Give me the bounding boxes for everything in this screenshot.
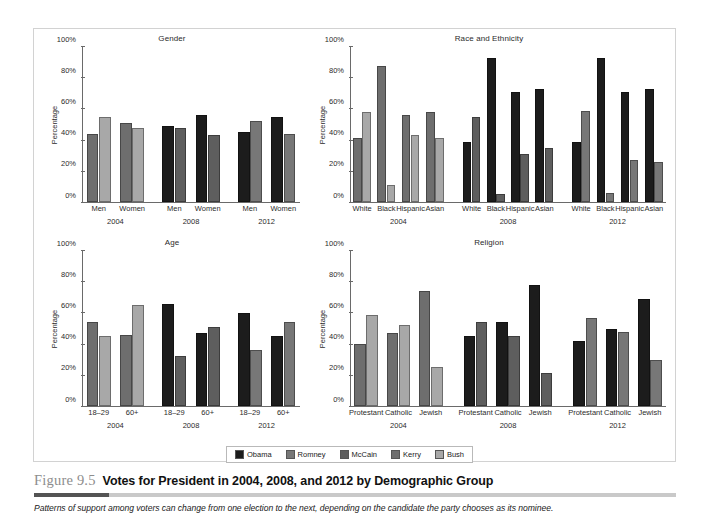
y-axis-tick-label: 100%: [57, 34, 76, 43]
bar: [353, 138, 362, 202]
legend-item-obama: Obama: [235, 450, 272, 459]
bar: [535, 89, 544, 202]
legend-label: Obama: [247, 450, 272, 459]
bar: [581, 111, 590, 202]
x-axis-year-label: 2008: [183, 421, 200, 430]
caption-rule: [34, 493, 676, 497]
bar: [606, 193, 615, 202]
bar: [520, 154, 529, 202]
x-axis-category-label: Protestant: [459, 408, 493, 417]
x-axis-category-label: Men: [91, 204, 106, 213]
bar: [463, 142, 472, 202]
y-axis-tick-label: 40%: [61, 332, 76, 341]
bar: [132, 305, 144, 406]
panel-title: Race and Ethnicity: [306, 34, 672, 43]
bar: [654, 162, 663, 202]
category-label-row: WhiteBlackHispanicAsianWhiteBlackHispani…: [350, 204, 666, 215]
x-axis-category-label: Jewish: [638, 408, 661, 417]
x-axis: [82, 202, 300, 203]
bar: [399, 325, 410, 406]
y-axis-tick-label: 80%: [61, 65, 76, 74]
legend-label: Bush: [447, 450, 464, 459]
x-axis-category-label: Asian: [535, 204, 554, 213]
bar: [250, 350, 262, 406]
bar: [529, 285, 540, 406]
bar: [496, 194, 505, 202]
x-axis-year-label: 2012: [609, 217, 626, 226]
bar: [411, 135, 420, 202]
x-axis-category-label: Men: [167, 204, 182, 213]
y-axis-tick-label: 60%: [329, 96, 344, 105]
bar: [271, 117, 283, 202]
chart-panel-religion: Religion0%20%40%60%80%100%PercentageProt…: [306, 238, 672, 436]
y-axis-tick-label: 100%: [325, 34, 344, 43]
x-axis-category-label: Catholic: [604, 408, 631, 417]
x-axis-category-label: Jewish: [529, 408, 552, 417]
y-axis-tick-label: 20%: [329, 363, 344, 372]
bar: [87, 322, 99, 406]
x-axis-category-label: Women: [270, 204, 296, 213]
x-axis-year-label: 2012: [258, 421, 275, 430]
x-axis-category-label: Black: [487, 204, 505, 213]
figure-page: Gender0%20%40%60%80%100%PercentageMenWom…: [0, 0, 709, 522]
x-axis-category-label: Hispanic: [396, 204, 425, 213]
bar: [238, 132, 250, 202]
x-axis-category-label: Hispanic: [506, 204, 535, 213]
legend-label: Romney: [298, 450, 326, 459]
y-axis-title: Percentage: [318, 106, 327, 144]
category-label-row: ProtestantCatholicJewishProtestantCathol…: [350, 408, 666, 419]
bar: [597, 58, 606, 202]
bar: [196, 333, 208, 406]
bar: [120, 123, 132, 202]
bar: [132, 128, 144, 202]
x-axis-year-label: 2012: [609, 421, 626, 430]
y-axis-tick: [349, 202, 353, 203]
bar: [419, 291, 430, 406]
plot-area: 0%20%40%60%80%100%Percentage: [82, 251, 300, 407]
y-axis-tick-label: 0%: [333, 190, 344, 199]
bar: [472, 117, 481, 202]
bar: [250, 121, 262, 202]
x-axis-category-label: 60+: [201, 408, 214, 417]
x-axis-category-label: Women: [119, 204, 145, 213]
legend-swatch-icon: [286, 450, 295, 459]
legend-swatch-icon: [235, 450, 244, 459]
bar: [645, 89, 654, 202]
legend-swatch-icon: [435, 450, 444, 459]
bar: [586, 318, 597, 406]
bar: [87, 134, 99, 202]
figure-number: Figure 9.5: [34, 472, 96, 489]
y-axis-title: Percentage: [318, 310, 327, 348]
x-axis-year-label: 2008: [500, 421, 517, 430]
x-axis-category-label: Black: [377, 204, 395, 213]
y-axis-tick-label: 0%: [333, 394, 344, 403]
bar-group-container: [350, 251, 666, 406]
plot-area: 0%20%40%60%80%100%Percentage: [350, 251, 666, 407]
x-axis-category-label: Black: [596, 204, 614, 213]
category-label-row: 18–2960+18–2960+18–2960+: [82, 408, 300, 419]
bar: [162, 304, 174, 406]
x-axis-category-label: Protestant: [568, 408, 602, 417]
bar: [387, 333, 398, 406]
y-axis-tick-label: 60%: [61, 300, 76, 309]
y-axis-tick-label: 80%: [329, 269, 344, 278]
y-axis-tick-label: 60%: [61, 96, 76, 105]
bar: [431, 367, 442, 406]
bar-group-container: [350, 47, 666, 202]
bar: [366, 315, 377, 406]
bar: [362, 112, 371, 202]
x-axis-category-label: 18–29: [88, 408, 109, 417]
legend-label: Kerry: [403, 450, 421, 459]
bar-group-container: [82, 47, 300, 202]
bar: [238, 313, 250, 406]
x-axis-category-label: White: [572, 204, 591, 213]
plot-area: 0%20%40%60%80%100%Percentage: [350, 47, 666, 203]
year-label-row: 200420082012: [350, 217, 666, 228]
chart-panel-age: Age0%20%40%60%80%100%Percentage18–2960+1…: [38, 238, 306, 436]
bar: [476, 322, 487, 406]
bar: [354, 344, 365, 406]
x-axis-year-label: 2004: [390, 217, 407, 226]
category-label-row: MenWomenMenWomenMenWomen: [82, 204, 300, 215]
bar: [573, 341, 584, 406]
y-axis-tick-label: 60%: [329, 300, 344, 309]
